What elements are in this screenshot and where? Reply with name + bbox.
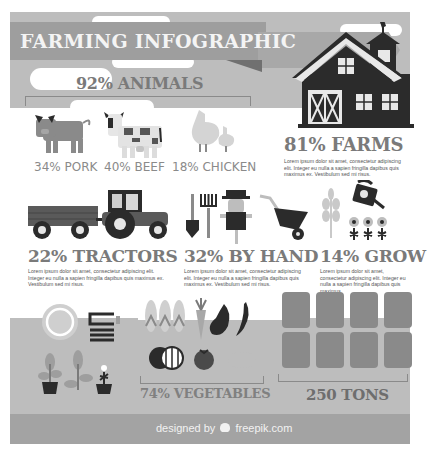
freepik-logo-icon xyxy=(220,423,230,432)
tractors-heading: 22% TRACTORS xyxy=(28,246,178,266)
page-title: FARMING INFOGRAPHIC xyxy=(20,30,296,52)
by-hand-text: Lorem ipsum dolor sit amet, consectetur … xyxy=(184,268,306,288)
animals-heading: 92% ANIMALS xyxy=(76,74,203,93)
farms-text: Lorem ipsum dolor sit amet, consectetur … xyxy=(284,158,410,178)
tractors-text: Lorem ipsum dolor sit amet, consectetur … xyxy=(28,268,168,288)
cow-icon xyxy=(100,108,162,162)
chicken-icon xyxy=(185,108,237,158)
pork-label: 34% PORK xyxy=(34,160,97,174)
grain-bag-icon xyxy=(316,292,344,328)
grain-bag-icon xyxy=(384,332,412,368)
garden-tools-icon xyxy=(184,190,308,248)
hose-icon xyxy=(88,310,124,346)
vegetables-bracket xyxy=(140,376,264,384)
credit-prefix: designed by xyxy=(156,422,215,434)
grain-bag-icon xyxy=(282,292,310,328)
grain-bag-icon xyxy=(282,332,310,368)
grain-bag-icon xyxy=(350,292,378,328)
grow-text: Lorem ipsum dolor sit amet, consectetur … xyxy=(320,268,410,294)
sun-icon xyxy=(38,300,82,348)
vegetables-heading: 74% VEGETABLES xyxy=(140,386,270,401)
barn-icon xyxy=(290,22,420,134)
chicken-label: 18% CHICKEN xyxy=(172,160,256,174)
seedling-icons xyxy=(38,350,120,398)
tons-bracket xyxy=(278,374,408,382)
grain-bag-icon xyxy=(350,332,378,368)
grow-heading: 14% GROW xyxy=(320,246,426,266)
credit-brand[interactable]: freepik.com xyxy=(235,422,292,434)
beef-label: 40% BEEF xyxy=(104,160,165,174)
tractor-icon xyxy=(28,186,172,246)
by-hand-heading: 32% BY HAND xyxy=(184,246,318,266)
pig-icon xyxy=(33,115,95,159)
footer-credit: designed by freepik.com xyxy=(156,422,292,434)
grain-bags xyxy=(282,292,412,368)
grain-bag-icon xyxy=(316,332,344,368)
farms-heading: 81% FARMS xyxy=(284,134,403,155)
grow-icon xyxy=(318,180,410,246)
vegetables-icon xyxy=(140,296,270,380)
tons-heading: 250 TONS xyxy=(306,386,389,404)
grain-bag-icon xyxy=(384,292,412,328)
